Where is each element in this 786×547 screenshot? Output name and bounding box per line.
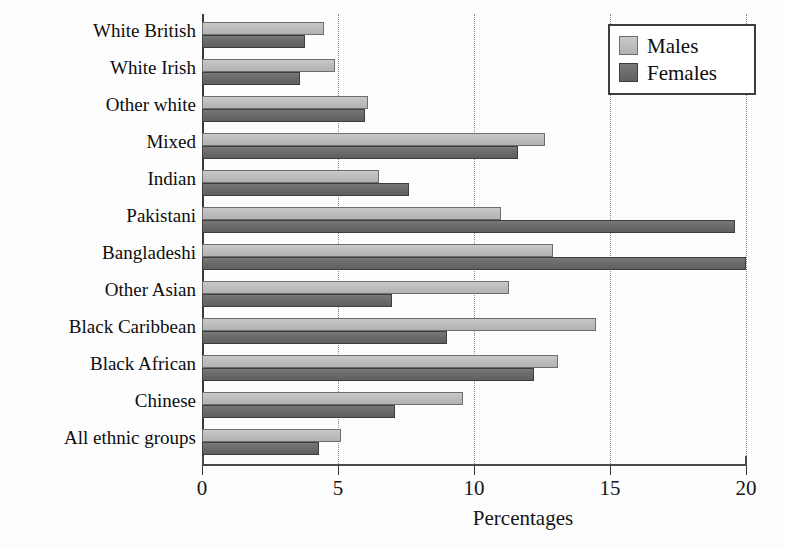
bar-males [202,429,341,442]
legend-swatch-males-icon [619,36,638,55]
bar-females [202,257,746,270]
category-label: Other Asian [6,280,202,300]
category-label: Other white [6,95,202,115]
x-tick-mark [202,466,203,475]
x-tick-label: 20 [716,476,776,500]
x-tick-mark [474,466,475,475]
bar-males [202,281,509,294]
category-label: Mixed [6,132,202,152]
bar-chart: 05101520 White BritishWhite IrishOther w… [0,0,786,547]
bar-males [202,96,368,109]
bar-males [202,207,501,220]
bar-females [202,35,305,48]
bar-females [202,442,319,455]
bar-males [202,22,324,35]
bar-males [202,355,558,368]
x-tick-mark [610,466,611,475]
category-label: Black African [6,354,202,374]
category-label: Pakistani [6,206,202,226]
x-tick-label: 0 [172,476,232,500]
category-label: Indian [6,169,202,189]
bar-males [202,133,545,146]
x-axis-title-text: Percentages [473,506,573,531]
x-axis-title: Percentages [0,506,786,531]
legend-label-males: Males [647,35,698,57]
x-tick-mark [746,466,747,475]
bar-males [202,244,553,257]
bar-males [202,392,463,405]
bar-males [202,318,596,331]
bar-females [202,220,735,233]
x-tick-label: 10 [444,476,504,500]
legend-item-males: Males [619,32,746,59]
x-tick-label: 15 [580,476,640,500]
bar-females [202,183,409,196]
legend-label-females: Females [647,62,717,84]
legend-item-females: Females [619,59,746,86]
bar-females [202,405,395,418]
legend: Males Females [608,24,756,95]
category-labels: White BritishWhite IrishOther whiteMixed… [0,18,202,462]
bar-females [202,294,392,307]
category-label: All ethnic groups [6,428,202,448]
category-label: Bangladeshi [6,243,202,263]
category-label: White Irish [6,58,202,78]
bar-females [202,368,534,381]
bar-males [202,59,335,72]
bar-males [202,170,379,183]
bar-females [202,72,300,85]
category-label: Black Caribbean [6,317,202,337]
legend-swatch-females-icon [619,63,638,82]
bar-females [202,146,518,159]
bar-females [202,109,365,122]
x-tick-mark [338,466,339,475]
bar-females [202,331,447,344]
category-label: Chinese [6,391,202,411]
category-label: White British [6,21,202,41]
x-tick-label: 5 [308,476,368,500]
